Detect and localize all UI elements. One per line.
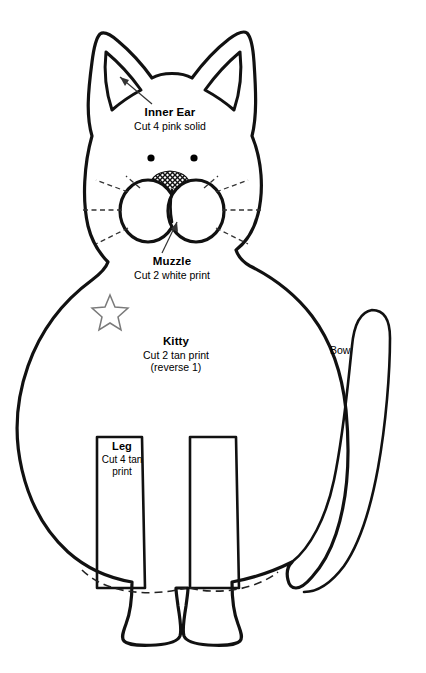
label-leg: Leg Cut 4 tan print — [86, 440, 158, 479]
inner-ear-title: Inner Ear — [0, 106, 340, 120]
eye-right-dot — [190, 154, 197, 161]
muzzle-title: Muzzle — [0, 255, 344, 269]
leg-instruction-line1: Cut 4 tan — [86, 454, 158, 467]
leg-title: Leg — [86, 440, 158, 454]
mouth-line — [171, 190, 173, 222]
pattern-sheet: Inner Ear Cut 4 pink solid Muzzle Cut 2 … — [0, 0, 426, 673]
eye-left-dot — [147, 154, 154, 161]
label-muzzle: Muzzle Cut 2 white print — [0, 255, 344, 281]
label-inner-ear: Inner Ear Cut 4 pink solid — [0, 106, 340, 132]
inner-ear-instruction: Cut 4 pink solid — [0, 120, 340, 132]
muzzle-instruction: Cut 2 white print — [0, 269, 344, 281]
kitty-title: Kitty — [0, 335, 352, 349]
label-kitty: Kitty Cut 2 tan print (reverse 1) — [0, 335, 352, 373]
leg-instruction-line2: print — [86, 466, 158, 479]
kitty-note: (reverse 1) — [0, 361, 352, 373]
bow-title: Bow — [330, 344, 390, 356]
label-bow: Bow — [330, 344, 390, 356]
kitty-instruction: Cut 2 tan print — [0, 349, 352, 361]
muzzle-right-circle — [168, 180, 224, 242]
